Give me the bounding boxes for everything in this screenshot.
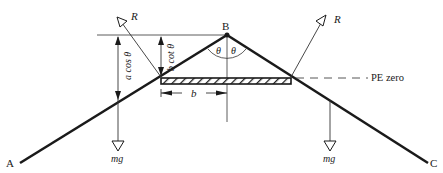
reaction-left-label: R <box>130 10 138 22</box>
reaction-right-arrow-icon <box>316 15 326 26</box>
point-b-label: B <box>222 20 229 32</box>
a-cos-theta-arrow-up-icon <box>115 36 121 45</box>
crossbar <box>161 78 291 84</box>
b-arrow-right-icon <box>216 91 227 96</box>
weight-left-arrow-icon <box>112 141 124 151</box>
weight-right-arrow-icon <box>324 141 336 151</box>
b-cot-theta-label: b cot θ <box>165 44 176 71</box>
reaction-right-line <box>291 23 321 77</box>
angle-left-label: θ <box>216 45 221 56</box>
angle-right-label: θ <box>231 45 236 56</box>
weight-right-label: mg <box>323 153 335 164</box>
apex-hinge <box>225 33 230 38</box>
weight-left-label: mg <box>111 153 123 164</box>
b-arrow-left-icon <box>161 91 172 96</box>
b-dimension-label: b <box>191 87 197 99</box>
a-cos-theta-arrow-down-icon <box>115 91 121 100</box>
point-c-label: C <box>430 157 437 169</box>
reaction-left-arrow-icon <box>117 17 127 27</box>
reaction-right-label: R <box>333 13 341 25</box>
ladder-diagram: A B C R R mg mg a cos θ b cot θ b θ θ PE… <box>0 0 443 173</box>
pe-zero-label: PE zero <box>371 72 404 83</box>
b-cot-theta-arrow-up-icon <box>158 36 164 45</box>
a-cos-theta-label: a cos θ <box>122 52 133 80</box>
point-a-label: A <box>6 157 14 169</box>
